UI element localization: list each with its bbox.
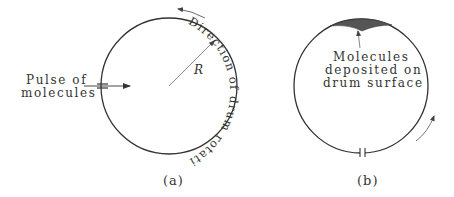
drum-diagram: R Pulse of molecules Direction of drum r…: [0, 0, 454, 197]
panel-a: R Pulse of molecules Direction of drum r…: [0, 0, 241, 188]
caption-b: (b): [357, 173, 378, 188]
deposit-label-line3: drum surface: [323, 76, 424, 90]
radius-label: R: [193, 63, 203, 77]
slit-icon-b: [360, 148, 365, 157]
pulse-label-line1: Pulse of: [26, 73, 87, 87]
deposit-label-line1: Molecules: [333, 50, 409, 64]
panel-b: Molecules deposited on drum surface (b): [294, 19, 434, 188]
pulse-label-line2: molecules: [21, 86, 97, 100]
caption-a: (a): [163, 173, 184, 188]
rotation-arrow-icon-a: [178, 9, 205, 18]
deposit-band: [330, 19, 392, 31]
deposit-arrow-icon: [358, 31, 360, 48]
radius-arrow-icon: [169, 41, 214, 86]
deposit-label-line2: deposited on: [325, 63, 422, 77]
